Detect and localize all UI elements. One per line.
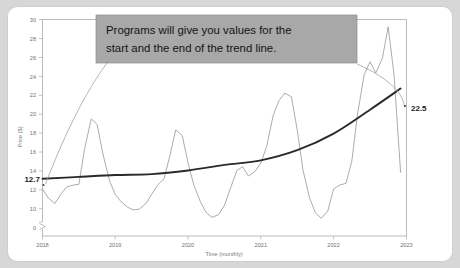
x-axis-title: Time (monthly) — [205, 251, 242, 257]
leader-line-start — [46, 63, 108, 184]
callout-annotation: Programs will give you values for the st… — [96, 15, 357, 63]
trend-line — [43, 89, 401, 179]
trend-start-value-label: 12.7 — [24, 175, 40, 184]
x-tick-label: 2022 — [327, 242, 339, 248]
y-tick-label: 14 — [30, 168, 36, 174]
x-tick-label: 2018 — [36, 242, 48, 248]
callout-line-1: Programs will give you values for the — [106, 24, 292, 36]
y-tick-label: 12 — [30, 187, 36, 193]
y-tick-label: 16 — [30, 149, 36, 155]
y-tick-label: 20 — [30, 111, 36, 117]
y-tick-label: 22 — [30, 92, 36, 98]
x-tick-label: 2021 — [255, 242, 267, 248]
y-origin-label: 0 — [33, 225, 36, 231]
callout-box — [96, 15, 357, 63]
price-trend-chart: 30 28 26 24 22 20 18 16 14 12 10 0 Price… — [8, 7, 452, 261]
x-axis-tick-labels: 2018 2019 2020 2021 2022 2023 — [36, 242, 412, 248]
y-tick-label: 10 — [30, 206, 36, 212]
y-axis-title: Price ($) — [17, 126, 23, 147]
chart-card: 30 28 26 24 22 20 18 16 14 12 10 0 Price… — [8, 7, 452, 261]
y-axis-ticks — [39, 20, 43, 223]
trend-end-value-label: 22.5 — [411, 104, 427, 113]
callout-line-2: start and the end of the trend line. — [106, 42, 276, 54]
x-axis-ticks — [43, 236, 407, 240]
x-tick-label: 2019 — [109, 242, 121, 248]
trend-start-marker — [42, 184, 44, 186]
y-tick-label: 18 — [30, 130, 36, 136]
trend-end-marker — [404, 105, 406, 107]
y-tick-label: 28 — [30, 36, 36, 42]
x-tick-label: 2020 — [182, 242, 194, 248]
y-axis-tick-labels: 30 28 26 24 22 20 18 16 14 12 10 0 — [30, 17, 36, 231]
leader-line-end — [357, 64, 405, 108]
y-tick-label: 26 — [30, 55, 36, 61]
x-tick-label: 2023 — [400, 242, 412, 248]
y-tick-label: 30 — [30, 17, 36, 23]
y-tick-label: 24 — [30, 74, 36, 80]
